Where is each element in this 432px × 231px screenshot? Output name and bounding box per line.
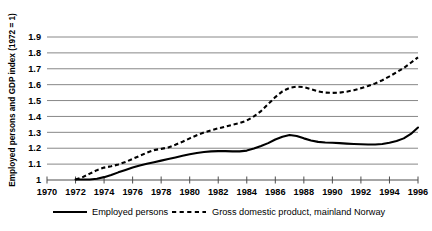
x-tick-label: 1984	[237, 187, 258, 197]
x-tick-label: 1994	[379, 187, 400, 197]
x-tick-label: 1990	[322, 187, 342, 197]
chart-legend: Employed personsGross domestic product, …	[53, 207, 386, 217]
x-tick-label: 1974	[94, 187, 115, 197]
x-tick-label: 1970	[37, 187, 57, 197]
y-tick-label: 1.2	[28, 143, 41, 153]
legend-label: Gross domestic product, mainland Norway	[212, 207, 386, 217]
line-chart: Employed persons and GDP index (1972 = 1…	[0, 0, 432, 231]
y-tick-label: 1.3	[28, 128, 41, 138]
x-tick-label: 1978	[151, 187, 171, 197]
chart-figure: Employed persons and GDP index (1972 = 1…	[0, 0, 432, 231]
legend-label: Employed persons	[92, 207, 168, 217]
y-tick-label: 1.7	[28, 64, 41, 74]
x-tick-label: 1986	[265, 187, 285, 197]
y-tick-label: 1.1	[28, 159, 41, 169]
y-tick-label: 1.6	[28, 80, 41, 90]
x-tick-label: 1972	[65, 187, 85, 197]
y-tick-label: 1.9	[28, 32, 41, 42]
x-tick-label: 1992	[351, 187, 371, 197]
y-tick-label: 1.4	[28, 112, 42, 122]
x-tick-label: 1980	[179, 187, 199, 197]
x-tick-label: 1996	[408, 187, 428, 197]
y-axis-title: Employed persons and GDP index (1972 = 1…	[8, 13, 17, 187]
x-tick-label: 1976	[122, 187, 142, 197]
y-tick-label: 1	[36, 175, 41, 185]
y-tick-label: 1.8	[28, 48, 41, 58]
x-tick-label: 1988	[294, 187, 314, 197]
y-tick-label: 1.5	[28, 96, 41, 106]
x-tick-label: 1982	[208, 187, 228, 197]
